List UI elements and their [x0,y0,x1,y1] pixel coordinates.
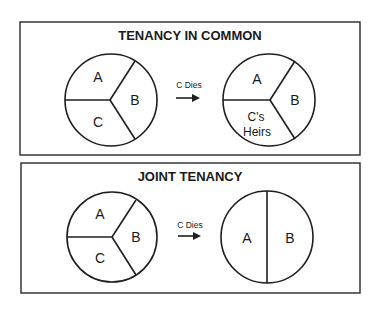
share-a-label: A [242,230,252,246]
tenancy-diagram: TENANCY IN COMMON A B C C Dies A B C's H… [0,0,380,315]
share-b-label: B [290,92,299,108]
share-b-label: B [131,229,140,245]
joint-tenancy-panel: JOINT TENANCY A B C C Dies A B [21,163,360,293]
share-c-label: C [93,114,103,130]
tenancy-in-common-panel: TENANCY IN COMMON A B C C Dies A B C's H… [20,22,360,155]
heirs-label-line1: C's [248,110,265,124]
panel-title: TENANCY IN COMMON [118,28,261,43]
share-b-label: B [285,230,294,246]
share-a-label: A [252,71,262,87]
arrow-label: C Dies [176,80,202,90]
panel-title: JOINT TENANCY [138,169,243,184]
share-a-label: A [95,206,105,222]
heirs-label-line2: Heirs [243,125,271,139]
arrow-label: C Dies [177,220,203,230]
share-b-label: B [130,92,139,108]
share-c-label: C [95,250,105,266]
share-a-label: A [93,69,103,85]
